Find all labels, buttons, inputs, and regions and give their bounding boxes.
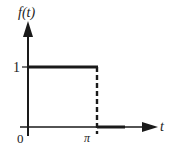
- origin-label: 0: [17, 131, 24, 146]
- step-function-plot: f(t) t 1 0 π: [0, 0, 173, 152]
- y-axis-label: f(t): [18, 5, 35, 21]
- x-axis-label: t: [160, 119, 165, 134]
- y-axis-arrow-icon: [23, 21, 33, 37]
- x-tick-label-pi: π: [84, 131, 91, 145]
- y-tick-label-1: 1: [13, 60, 20, 75]
- x-axis-arrow-icon: [142, 122, 158, 132]
